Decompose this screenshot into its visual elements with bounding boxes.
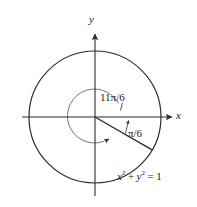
- circle-equation: x2+y2=1: [117, 170, 162, 182]
- y-axis-label: y: [89, 14, 94, 25]
- figure-canvas: y x 11π/6 π/6 x2+y2=1: [0, 0, 197, 207]
- equation-rhs: 1: [156, 170, 162, 182]
- equation-y-exponent: 2: [142, 169, 146, 177]
- equation-plus: +: [128, 170, 134, 182]
- x-axis-label: x: [176, 110, 181, 121]
- equation-equals: =: [148, 170, 154, 182]
- angle-large-leader: [121, 103, 123, 111]
- angle-label-pi-over-six: π/6: [128, 128, 142, 139]
- equation-x-exponent: 2: [122, 169, 126, 177]
- unit-circle-diagram: [0, 0, 197, 207]
- angle-label-eleven-pi-over-six: 11π/6: [100, 92, 125, 103]
- terminal-side-ray: [95, 117, 153, 150]
